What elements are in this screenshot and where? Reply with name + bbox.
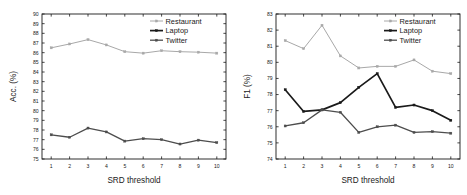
data-point-twitter — [376, 126, 378, 128]
f1-chart: 7475767778798081828312345678910SRD thres… — [234, 0, 467, 195]
legend-label-restaurant: Restaurant — [166, 17, 202, 26]
x-tick-label: 1 — [283, 163, 286, 169]
y-axis-title: F1 (%) — [243, 74, 252, 99]
y-tick-label: 86 — [33, 50, 39, 56]
data-point-twitter — [50, 134, 52, 136]
y-tick-label: 87 — [33, 40, 39, 46]
data-point-twitter — [124, 140, 126, 142]
y-tick-label: 83 — [266, 11, 272, 17]
y-tick-label: 89 — [33, 21, 39, 27]
data-point-laptop — [284, 89, 286, 91]
data-point-restaurant — [197, 51, 199, 53]
data-point-restaurant — [431, 70, 433, 72]
y-tick-label: 81 — [266, 43, 272, 49]
data-point-twitter — [449, 132, 451, 134]
x-tick-label: 1 — [50, 163, 53, 169]
data-point-restaurant — [69, 43, 71, 45]
data-point-twitter — [394, 124, 396, 126]
data-point-twitter — [302, 122, 304, 124]
data-point-twitter — [69, 136, 71, 138]
legend-label-laptop: Laptop — [166, 26, 189, 35]
y-tick-label: 75 — [33, 156, 39, 162]
data-point-restaurant — [376, 65, 378, 67]
x-tick-label: 2 — [68, 163, 71, 169]
data-point-laptop — [376, 73, 378, 75]
data-point-twitter — [412, 131, 414, 133]
data-point-twitter — [357, 131, 359, 133]
y-tick-label: 82 — [266, 27, 272, 33]
data-point-laptop — [339, 102, 341, 104]
legend-marker-laptop — [155, 30, 157, 32]
x-axis-title: SRD threshold — [107, 176, 161, 185]
data-point-twitter — [216, 142, 218, 144]
data-point-restaurant — [50, 47, 52, 49]
series-line-laptop — [285, 74, 451, 121]
figure-container: 7576777879808182838485868788899012345678… — [0, 0, 467, 195]
data-point-restaurant — [142, 52, 144, 54]
plot-frame — [276, 14, 460, 159]
data-point-twitter — [142, 138, 144, 140]
data-point-restaurant — [161, 50, 163, 52]
data-point-restaurant — [449, 73, 451, 75]
data-point-laptop — [449, 119, 451, 121]
data-point-twitter — [105, 131, 107, 133]
y-tick-label: 90 — [33, 11, 39, 17]
x-tick-label: 10 — [214, 163, 220, 169]
data-point-restaurant — [339, 55, 341, 57]
data-point-restaurant — [124, 51, 126, 53]
data-point-twitter — [320, 109, 322, 111]
series-line-restaurant — [51, 40, 217, 54]
y-tick-label: 80 — [266, 59, 272, 65]
series-line-twitter — [51, 128, 217, 144]
x-tick-label: 8 — [179, 163, 182, 169]
x-tick-label: 9 — [197, 163, 200, 169]
legend-marker-restaurant — [155, 20, 157, 22]
x-axis-title: SRD threshold — [341, 176, 395, 185]
legend-marker-restaurant — [389, 20, 391, 22]
data-point-restaurant — [87, 39, 89, 41]
series-line-twitter — [285, 110, 451, 133]
data-point-twitter — [339, 111, 341, 113]
y-tick-label: 77 — [33, 137, 39, 143]
data-point-twitter — [179, 143, 181, 145]
legend-label-laptop: Laptop — [399, 26, 422, 35]
data-point-restaurant — [179, 51, 181, 53]
y-axis-title: Acc. (%) — [9, 71, 18, 102]
legend-label-restaurant: Restaurant — [399, 17, 435, 26]
y-tick-label: 78 — [33, 127, 39, 133]
data-point-laptop — [431, 110, 433, 112]
data-point-restaurant — [302, 48, 304, 50]
x-tick-label: 6 — [375, 163, 378, 169]
x-tick-label: 3 — [87, 163, 90, 169]
legend-label-twitter: Twitter — [166, 36, 188, 45]
data-point-twitter — [161, 139, 163, 141]
data-point-laptop — [394, 106, 396, 108]
y-tick-label: 80 — [33, 108, 39, 114]
x-tick-label: 4 — [105, 163, 108, 169]
legend-marker-laptop — [389, 30, 391, 32]
data-point-laptop — [357, 86, 359, 88]
data-point-restaurant — [216, 52, 218, 54]
y-tick-label: 88 — [33, 30, 39, 36]
series-line-restaurant — [285, 25, 451, 73]
data-point-laptop — [302, 110, 304, 112]
legend-label-twitter: Twitter — [399, 36, 421, 45]
y-tick-label: 85 — [33, 59, 39, 65]
data-point-restaurant — [394, 65, 396, 67]
acc-panel: 7576777879808182838485868788899012345678… — [0, 0, 234, 195]
data-point-twitter — [197, 139, 199, 141]
data-point-laptop — [412, 104, 414, 106]
data-point-twitter — [431, 131, 433, 133]
y-tick-label: 82 — [33, 88, 39, 94]
data-point-restaurant — [412, 59, 414, 61]
data-point-restaurant — [357, 67, 359, 69]
y-tick-label: 77 — [266, 108, 272, 114]
data-point-twitter — [284, 125, 286, 127]
y-tick-label: 79 — [266, 75, 272, 81]
y-tick-label: 76 — [33, 146, 39, 152]
y-tick-label: 78 — [266, 91, 272, 97]
x-tick-label: 4 — [338, 163, 341, 169]
legend-marker-twitter — [155, 39, 157, 41]
accuracy-chart: 7576777879808182838485868788899012345678… — [0, 0, 234, 195]
x-tick-label: 7 — [160, 163, 163, 169]
